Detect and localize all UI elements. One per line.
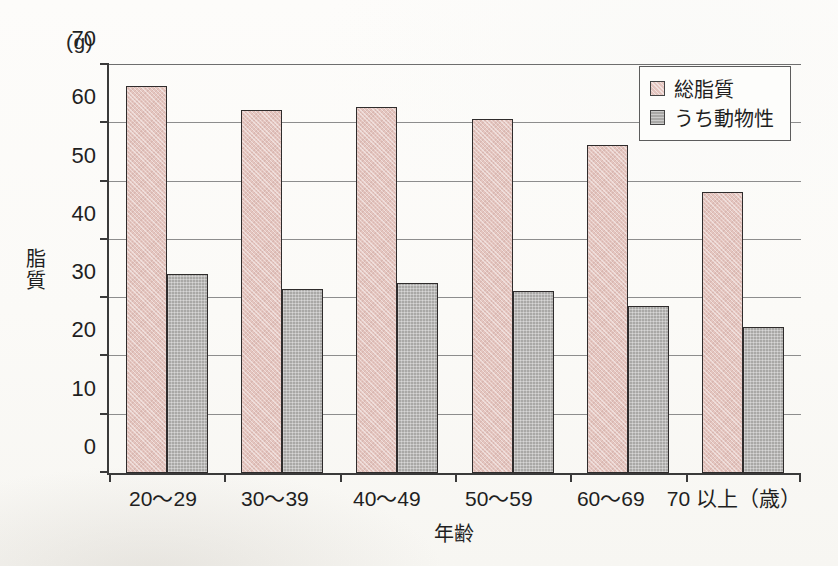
bar-animal-fat [628,306,669,473]
chart-page: (g) 脂 質 010203040506070 20〜2930〜3940〜495… [0,0,838,566]
x-tick-mark [455,473,457,482]
x-tick-mark [224,473,226,482]
bar-animal-fat [167,274,208,473]
bar-animal-fat [397,283,438,473]
bar-total-fat [587,145,628,473]
bar-total-fat [126,86,167,473]
x-axis-category-label: 20〜29 [107,482,219,512]
x-tick-mark [340,473,342,482]
y-tick-mark-30 [100,296,109,298]
y-tick-label-30: 30 [72,259,96,285]
y-tick-label-60: 60 [72,84,96,110]
bar-total-fat [702,192,743,473]
x-tick-mark [570,473,572,482]
legend-swatch-animal-icon [650,110,665,125]
y-axis-title-char-1: 脂 [24,248,48,270]
x-axis-category-label: 50〜59 [443,482,555,512]
bar-total-fat [241,110,282,473]
x-tick-mark [686,473,688,482]
legend-item-animal: うち動物性 [650,103,774,132]
x-axis-category-label: 30〜39 [219,482,331,512]
bar-animal-fat [743,327,784,473]
y-tick-mark-60 [100,121,109,123]
legend-label-total: 総脂質 [674,74,734,103]
y-axis-title-char-2: 質 [24,270,48,292]
y-tick-label-50: 50 [72,143,96,169]
y-tick-mark-70 [100,63,109,65]
y-tick-label-70: 70 [72,26,96,52]
x-axis-category-label: 70 以上（歳） [667,482,801,512]
bar-group [455,65,570,473]
legend-swatch-total-icon [650,81,665,96]
chart-legend: 総脂質 うち動物性 [639,66,791,141]
y-tick-label-0: 0 [84,434,96,460]
y-tick-mark-40 [100,238,109,240]
bar-group [224,65,339,473]
bar-total-fat [356,107,397,473]
bar-group [340,65,455,473]
y-axis-title: 脂 質 [24,248,48,293]
y-tick-mark-20 [100,354,109,356]
y-tick-label-40: 40 [72,201,96,227]
x-axis-tick-labels: 20〜2930〜3940〜4950〜5960〜6970 以上（歳） [107,482,801,512]
x-axis-category-label: 40〜49 [331,482,443,512]
x-tick-mark [109,473,111,482]
bar-total-fat [472,119,513,473]
legend-label-animal: うち動物性 [674,103,774,132]
x-axis-title: 年齢 [107,518,801,547]
y-tick-mark-0 [100,471,109,473]
y-tick-label-20: 20 [72,317,96,343]
bar-animal-fat [282,289,323,474]
x-axis-category-label: 60〜69 [555,482,667,512]
x-tick-mark-end [799,473,801,482]
y-tick-label-10: 10 [72,376,96,402]
legend-item-total: 総脂質 [650,74,774,103]
bar-group [109,65,224,473]
y-tick-mark-50 [100,180,109,182]
y-tick-mark-10 [100,413,109,415]
bar-animal-fat [513,291,554,473]
